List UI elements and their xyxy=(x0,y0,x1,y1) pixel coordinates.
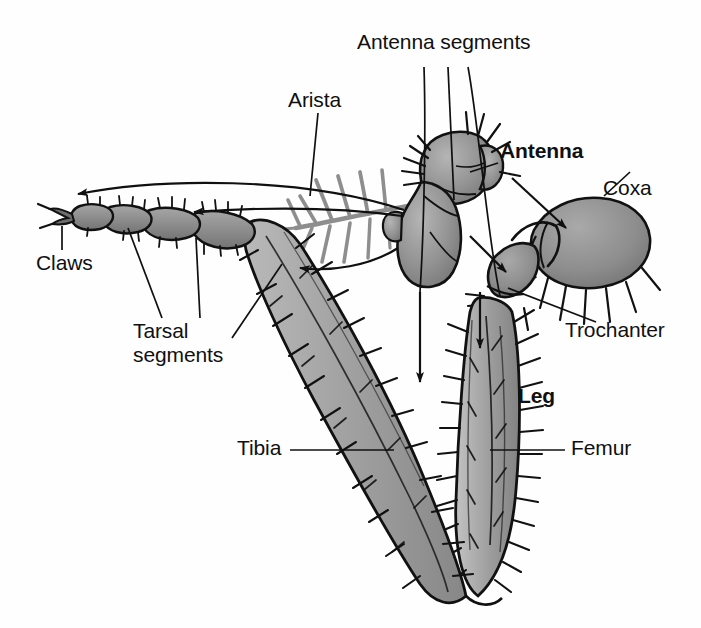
antenna-lower-segment xyxy=(397,182,460,287)
label-arista: Arista xyxy=(288,88,341,112)
label-leg: Leg xyxy=(518,384,555,408)
label-coxa: Coxa xyxy=(603,176,652,200)
label-antenna-segments: Antenna segments xyxy=(357,30,531,54)
femur-tibia-joint xyxy=(466,596,502,605)
anatomy-diagram: Antenna segments Arista Antenna Coxa Tro… xyxy=(0,0,701,628)
leader-tarsal-1 xyxy=(128,228,162,318)
coxa-segment xyxy=(530,198,660,324)
label-trochanter: Trochanter xyxy=(565,318,665,342)
figure-illustration xyxy=(0,0,701,628)
leader-tarsal-2 xyxy=(196,238,200,318)
label-tibia: Tibia xyxy=(237,436,281,460)
tarsus-segment xyxy=(71,196,255,256)
label-antenna: Antenna xyxy=(500,139,583,163)
label-femur: Femur xyxy=(571,436,631,460)
label-claws: Claws xyxy=(36,251,93,275)
claw-tip xyxy=(38,204,74,228)
label-tarsal-segments: Tarsal segments xyxy=(133,319,223,366)
